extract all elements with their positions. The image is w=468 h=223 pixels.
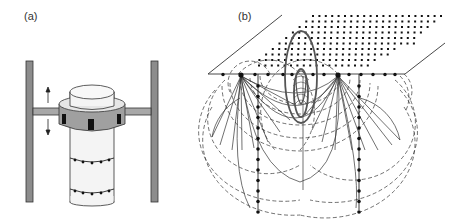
right-support-post [151, 61, 158, 202]
cylinder-top [70, 85, 114, 110]
collar-sensor [117, 114, 121, 124]
borehole-left [256, 74, 260, 214]
collar-sensor [88, 119, 94, 130]
surface-electrode-line [221, 72, 396, 77]
borehole-right [357, 74, 361, 214]
left-arm [33, 108, 61, 115]
panel-b-diagram [199, 15, 445, 218]
right-arm [123, 108, 151, 115]
sensitivity-contours [285, 31, 317, 123]
panel-a-diagram [26, 61, 158, 206]
collar-sensor [62, 114, 66, 124]
left-support-post [26, 61, 33, 202]
